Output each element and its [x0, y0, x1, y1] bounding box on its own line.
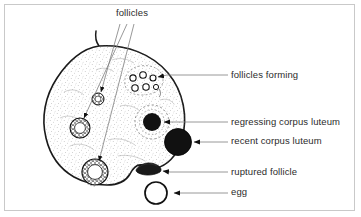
egg-circle — [145, 182, 167, 204]
ovary-cortex — [44, 46, 185, 185]
follicle-large — [82, 159, 108, 186]
recent-corpus-luteum — [165, 129, 192, 156]
ovary-outline — [44, 31, 185, 185]
label-follicles: follicles — [116, 8, 148, 18]
follicle-small — [92, 93, 104, 105]
label-egg: egg — [231, 187, 247, 197]
label-regressing-corpus-luteum: regressing corpus luteum — [231, 117, 340, 127]
ovary-diagram-figure: follicles follicles forming regressing c… — [0, 0, 361, 217]
leader-line-ruptured-follicle — [163, 171, 228, 172]
label-recent-corpus-luteum: recent corpus luteum — [231, 136, 322, 146]
ovary-stalk — [96, 31, 99, 46]
follicle-medium — [70, 118, 90, 138]
ovary-diagram-drawing — [0, 0, 361, 217]
label-ruptured-follicle: ruptured follicle — [231, 167, 297, 177]
label-follicles-forming: follicles forming — [231, 70, 298, 80]
